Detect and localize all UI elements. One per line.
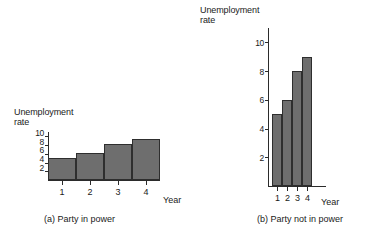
panel-a-xtick-2: 2 [82, 188, 98, 197]
panel-b-y-axis-title: Unemployment rate [200, 6, 259, 25]
panel-b-caption: (b) Party not in power [257, 215, 343, 224]
panel-b-xtick-4: 4 [302, 194, 313, 203]
panel-a-bar-year-3 [104, 144, 132, 180]
panel-b-plot-area [268, 28, 326, 186]
panel-a-xtick-3: 3 [110, 188, 126, 197]
panel-b-ytick-10: 10 [246, 39, 264, 48]
panel-b-ytick-8: 8 [246, 68, 264, 77]
panel-a-x-axis-title: Year [163, 196, 181, 205]
panel-a-xtickmark-2 [90, 181, 91, 185]
chart-panel-a: Unemployment rate 10 8 6 4 2 1 2 3 4 Yea… [0, 96, 190, 237]
panel-a-bar-year-4 [132, 139, 160, 180]
panel-b-bar-year-2 [282, 100, 292, 186]
panel-b-x-axis-title: Year [321, 198, 339, 207]
panel-a-xtick-4: 4 [138, 188, 154, 197]
panel-b-ytick-4: 4 [246, 125, 264, 134]
panel-b-xtickmark-2 [287, 187, 288, 191]
panel-b-bar-year-4 [302, 57, 312, 186]
panel-a-xtick-1: 1 [54, 188, 70, 197]
panel-b-ytick-2: 2 [246, 154, 264, 163]
panel-b-bar-year-1 [272, 114, 282, 186]
panel-a-x-axis-line [48, 180, 160, 181]
chart-panel-b: Unemployment rate 10 8 6 4 2 1 2 3 4 Yea… [190, 0, 373, 237]
unemployment-rate-figure: Unemployment rate 10 8 6 4 2 1 2 3 4 Yea… [0, 0, 373, 237]
panel-b-ytick-6: 6 [246, 96, 264, 105]
panel-a-caption: (a) Party in power [44, 215, 115, 224]
panel-a-y-axis-title: Unemployment rate [14, 108, 73, 127]
panel-a-ytick-2: 2 [30, 164, 44, 173]
panel-a-bar-year-2 [76, 153, 104, 180]
panel-a-plot-area [48, 132, 160, 180]
panel-b-xtickmark-1 [277, 187, 278, 191]
panel-b-bar-year-3 [292, 71, 302, 186]
panel-b-xtickmark-4 [307, 187, 308, 191]
panel-a-xtickmark-1 [62, 181, 63, 185]
panel-a-bar-year-1 [48, 158, 76, 180]
panel-b-xtickmark-3 [297, 187, 298, 191]
panel-a-xtickmark-4 [146, 181, 147, 185]
panel-a-xtickmark-3 [118, 181, 119, 185]
